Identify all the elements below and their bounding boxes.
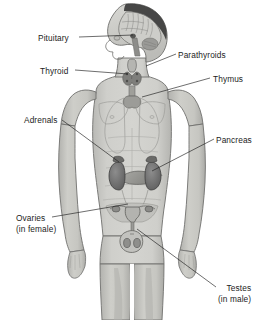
- label-testes-qualifier: (in male): [218, 294, 251, 305]
- endocrine-system-diagram: PituitaryThyroidAdrenalsOvaries(in femal…: [0, 0, 263, 320]
- pituitary-gland: [130, 34, 135, 38]
- head-section: [106, 4, 167, 62]
- anatomy-illustration: [0, 0, 263, 320]
- label-parathyroids: Parathyroids: [178, 50, 226, 61]
- parathyroid-gland: [126, 80, 128, 82]
- label-ovaries: Ovaries(in female): [16, 213, 56, 234]
- kidney-right: [145, 162, 161, 190]
- kidney-left: [109, 162, 125, 190]
- label-adrenals: Adrenals: [24, 115, 58, 126]
- label-pancreas-name: Pancreas: [216, 135, 252, 145]
- label-adrenals-name: Adrenals: [24, 115, 58, 125]
- label-parathyroids-name: Parathyroids: [178, 50, 226, 60]
- label-pituitary: Pituitary: [38, 33, 69, 44]
- parathyroid-gland: [136, 73, 138, 75]
- ovary-right: [145, 206, 153, 212]
- ovary-left: [112, 206, 120, 212]
- label-thymus-name: Thymus: [213, 74, 243, 84]
- label-testes: Testes(in male): [218, 283, 251, 304]
- parathyroid-gland: [136, 80, 138, 82]
- label-pituitary-name: Pituitary: [38, 33, 69, 43]
- label-pancreas: Pancreas: [216, 135, 252, 146]
- testis-right: [134, 238, 141, 247]
- label-thymus: Thymus: [213, 74, 243, 85]
- label-ovaries-qualifier: (in female): [16, 224, 56, 235]
- label-thyroid-name: Thyroid: [40, 66, 68, 76]
- label-ovaries-name: Ovaries: [16, 213, 45, 223]
- label-thyroid: Thyroid: [40, 66, 68, 77]
- label-testes-name: Testes: [227, 283, 252, 293]
- testis-left: [124, 238, 131, 247]
